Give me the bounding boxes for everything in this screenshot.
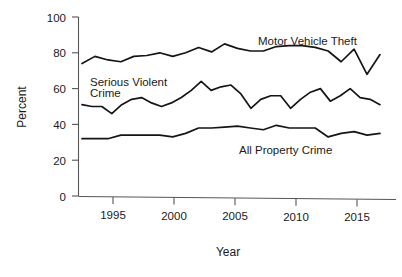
- series-label-motor-vehicle-theft: Motor Vehicle Theft: [258, 35, 358, 47]
- line-chart: 100 80 60 40 20 0 1995 2000 2005 2010 20…: [0, 0, 402, 277]
- y-tick-label-40: 40: [53, 119, 66, 131]
- series-line-all-property-crime: [82, 125, 380, 138]
- chart-container: 100 80 60 40 20 0 1995 2000 2005 2010 20…: [0, 0, 402, 277]
- series-label-all-property-crime: All Property Crime: [239, 144, 332, 156]
- x-axis-title: Year: [216, 245, 240, 259]
- y-tick-label-60: 60: [53, 83, 66, 95]
- y-tick-label-100: 100: [47, 12, 66, 24]
- x-tick-label-2015: 2015: [344, 211, 370, 223]
- x-tick-label-2000: 2000: [161, 210, 187, 222]
- series-line-motor-vehicle-theft: [82, 44, 380, 74]
- x-tick-label-2010: 2010: [283, 211, 309, 223]
- y-tick-label-80: 80: [53, 47, 66, 59]
- y-axis-title: Percent: [15, 86, 29, 128]
- series-label-serious-violent-crime-line2: Crime: [90, 87, 121, 99]
- x-tick-label-2005: 2005: [222, 210, 248, 222]
- y-tick-label-20: 20: [53, 155, 66, 167]
- x-tick-label-1995: 1995: [100, 209, 126, 221]
- y-tick-label-0: 0: [60, 191, 66, 203]
- x-axis-line: [79, 197, 397, 200]
